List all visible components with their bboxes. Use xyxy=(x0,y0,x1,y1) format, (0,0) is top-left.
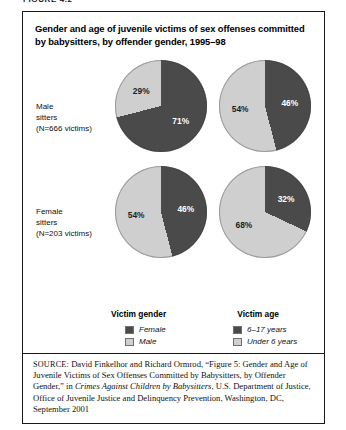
pie-chart-male-sitters-victim-age: 46% 54% xyxy=(219,60,311,152)
pie-chart-female-sitters-victim-age: 32% 68% xyxy=(219,166,311,258)
legend-swatch-6-17-years xyxy=(233,326,242,334)
legend-title: Victim gender xyxy=(111,309,166,319)
legend-item-6-17-years: 6–17 years xyxy=(233,325,297,334)
pie-slice-label-dark: 46% xyxy=(177,204,194,214)
chart-area: Male sitters (N=666 victims) Female sitt… xyxy=(23,54,324,309)
figure-number-label: FIGURE 4.2 xyxy=(23,0,73,3)
row-label-line1: Male xyxy=(36,101,92,112)
row-label-line3: (N=666 victims) xyxy=(36,123,92,134)
legend-label-male: Male xyxy=(139,337,156,346)
row-label-line2: sitters xyxy=(36,112,92,123)
figure-title: Gender and age of juvenile victims of se… xyxy=(35,22,313,48)
legend-item-under-6-years: Under 6 years xyxy=(233,337,297,346)
pie-slice-label-dark: 71% xyxy=(172,116,189,126)
source-note: SOURCE: David Finkelhor and Richard Ormr… xyxy=(33,359,315,415)
figure-page: FIGURE 4.2 Gender and age of juvenile vi… xyxy=(0,0,346,430)
legend-item-male: Male xyxy=(125,337,166,346)
legend-label-6-17-years: 6–17 years xyxy=(247,325,287,334)
legend-title: Victim age xyxy=(219,309,297,319)
legend-victim-age: Victim age 6–17 years Under 6 years xyxy=(219,309,297,349)
pie-chart-male-sitters-victim-gender: 71% 29% xyxy=(115,60,207,152)
pie-outline xyxy=(219,166,311,258)
pie-slice-label-dark: 32% xyxy=(278,194,295,204)
source-italic-title: Crimes Against Children by Babysitters xyxy=(75,381,212,391)
source-divider xyxy=(23,353,324,354)
legend-swatch-male xyxy=(125,338,134,346)
row-label-line1: Female xyxy=(36,206,92,217)
pie-slice-label-light: 29% xyxy=(133,86,150,96)
row-label-line3: (N=203 victims) xyxy=(36,228,92,239)
row-label-female-sitters: Female sitters (N=203 victims) xyxy=(36,206,92,239)
pie-outline xyxy=(115,60,207,152)
pie-slice-label-dark: 46% xyxy=(281,98,298,108)
legend-victim-gender: Victim gender Female Male xyxy=(111,309,166,349)
pie-slice-label-light: 54% xyxy=(232,104,249,114)
source-prefix: SOURCE: xyxy=(33,360,69,369)
legend-swatch-female xyxy=(125,326,134,334)
figure-frame: Gender and age of juvenile victims of se… xyxy=(22,11,325,424)
legend-item-female: Female xyxy=(125,325,166,334)
row-label-male-sitters: Male sitters (N=666 victims) xyxy=(36,101,92,134)
pie-slice-label-light: 68% xyxy=(236,220,253,230)
legend-label-under-6-years: Under 6 years xyxy=(247,337,297,346)
pie-chart-female-sitters-victim-gender: 46% 54% xyxy=(115,166,207,258)
legend-swatch-under-6-years xyxy=(233,338,242,346)
legend-label-female: Female xyxy=(139,325,166,334)
row-label-line2: sitters xyxy=(36,217,92,228)
pie-slice-label-light: 54% xyxy=(128,210,145,220)
